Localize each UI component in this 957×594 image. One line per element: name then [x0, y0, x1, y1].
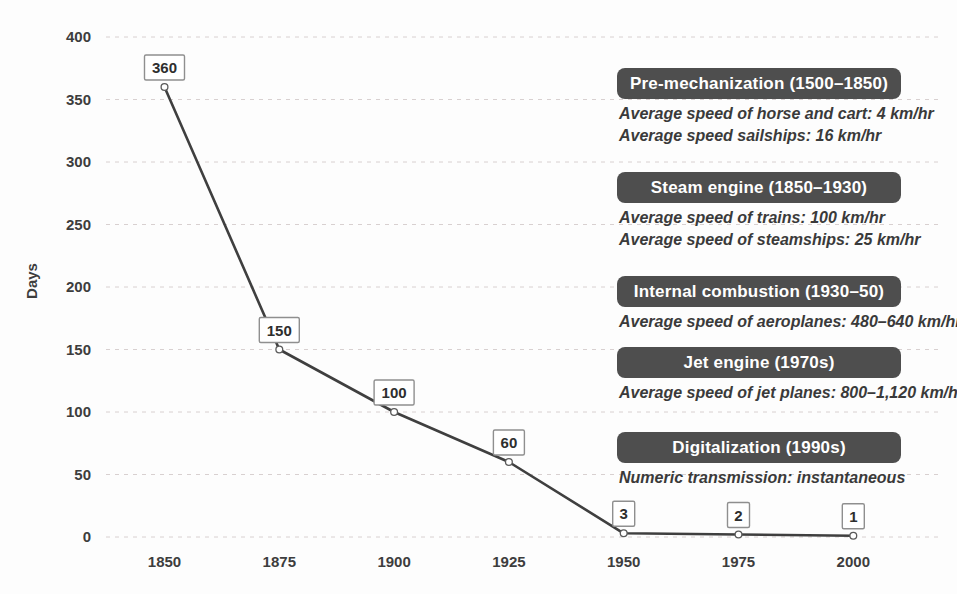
data-point-marker [620, 530, 627, 537]
data-point-marker [161, 84, 168, 91]
y-tick-label: 50 [74, 466, 91, 483]
x-tick-label: 1925 [492, 553, 525, 570]
y-tick-label: 0 [83, 528, 91, 545]
data-point-label: 3 [620, 505, 628, 522]
data-point-label: 100 [382, 384, 407, 401]
data-line [165, 87, 854, 536]
data-point-marker [506, 459, 513, 466]
data-point-label: 60 [501, 434, 518, 451]
y-tick-label: 250 [66, 216, 91, 233]
data-point-label: 150 [267, 322, 292, 339]
data-point-marker [391, 409, 398, 416]
travel-time-decline-figure: 0501001502002503003504001850187519001925… [0, 0, 957, 594]
line-chart: 0501001502002503003504001850187519001925… [0, 0, 957, 594]
data-point-marker [850, 532, 857, 539]
y-axis-title: Days [23, 263, 40, 299]
data-point-marker [276, 346, 283, 353]
y-tick-label: 400 [66, 28, 91, 45]
x-tick-label: 1900 [377, 553, 410, 570]
y-tick-label: 150 [66, 341, 91, 358]
data-point-marker [735, 531, 742, 538]
data-point-label: 1 [849, 508, 857, 525]
y-tick-label: 350 [66, 91, 91, 108]
x-tick-label: 1950 [607, 553, 640, 570]
y-tick-label: 100 [66, 403, 91, 420]
data-point-label: 2 [734, 507, 742, 524]
x-tick-label: 1975 [722, 553, 755, 570]
y-tick-label: 300 [66, 153, 91, 170]
y-tick-label: 200 [66, 278, 91, 295]
x-tick-label: 2000 [837, 553, 870, 570]
data-point-label: 360 [152, 59, 177, 76]
x-tick-label: 1850 [148, 553, 181, 570]
x-tick-label: 1875 [263, 553, 296, 570]
